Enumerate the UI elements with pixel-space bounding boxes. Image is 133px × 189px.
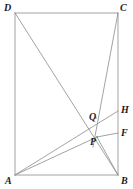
segment-ray-A-to-H	[15, 111, 118, 175]
point-label-Q: Q	[89, 112, 96, 122]
segment-layer	[15, 13, 118, 175]
point-label-C: C	[120, 3, 127, 13]
point-label-D: D	[4, 3, 11, 13]
point-label-P: P	[90, 137, 96, 147]
segment-segment-P-to-B	[97, 137, 118, 175]
segment-cevian-C-to-A	[93, 13, 118, 147]
point-label-A: A	[5, 176, 12, 186]
segment-ray-A-to-P	[15, 137, 97, 175]
figure-canvas	[0, 0, 133, 189]
point-marker-P	[96, 136, 97, 137]
point-label-B: B	[121, 176, 128, 186]
geometry-figure: ABCDQPHF	[0, 0, 133, 189]
point-label-H: H	[121, 105, 129, 115]
point-label-F: F	[121, 128, 128, 138]
segment-segment-P-to-F	[97, 133, 118, 137]
